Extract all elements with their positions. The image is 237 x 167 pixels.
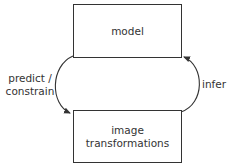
infer-arrow	[181, 57, 199, 112]
image-transformations-label: image transformations	[86, 124, 170, 150]
predict-constrain-label: predict / constrain	[0, 72, 60, 98]
model-box: model	[73, 4, 182, 58]
infer-label: infer	[202, 78, 236, 91]
model-label: model	[111, 25, 144, 38]
image-transformations-box: image transformations	[73, 110, 182, 163]
